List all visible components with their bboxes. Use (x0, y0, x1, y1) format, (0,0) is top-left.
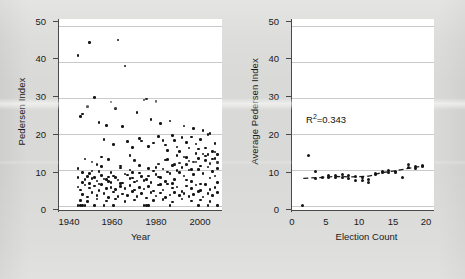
data-point (164, 180, 167, 183)
data-point (152, 190, 155, 193)
data-point (121, 125, 124, 128)
data-point (199, 183, 202, 186)
data-point (178, 150, 181, 153)
data-point (145, 178, 148, 181)
right-ytick-10: 10 (257, 167, 279, 178)
data-point (197, 204, 200, 207)
data-point (159, 183, 162, 186)
data-point (173, 139, 176, 142)
data-point (77, 176, 80, 179)
data-point (171, 187, 174, 190)
gridline-y-30 (59, 98, 222, 99)
data-point (214, 142, 217, 145)
data-point (195, 152, 198, 155)
data-point (86, 105, 89, 108)
data-point (93, 185, 96, 188)
data-point (207, 204, 210, 207)
data-point (214, 157, 217, 160)
data-point (119, 167, 122, 170)
data-point (155, 173, 158, 176)
data-point (207, 166, 210, 169)
gridline-y-20 (59, 134, 222, 135)
data-point (414, 167, 417, 170)
data-point (117, 195, 120, 198)
data-point (93, 176, 96, 179)
left-xtick-1960: 1960 (93, 216, 131, 227)
data-point (100, 165, 103, 168)
data-point (216, 204, 219, 207)
data-point (93, 96, 96, 99)
data-point (192, 161, 195, 164)
r-squared-base: R (306, 114, 313, 125)
data-point (84, 178, 87, 181)
data-point (164, 159, 167, 162)
data-point (301, 204, 304, 207)
data-point (131, 146, 134, 149)
data-point (197, 168, 200, 171)
data-point (88, 172, 91, 175)
data-point (216, 161, 219, 164)
data-point (138, 172, 141, 175)
data-point (162, 139, 165, 142)
data-point (140, 175, 143, 178)
data-point (103, 138, 106, 141)
data-point (202, 172, 205, 175)
data-point (133, 189, 136, 192)
data-point (367, 181, 370, 184)
data-point (103, 192, 106, 195)
data-point (159, 176, 162, 179)
data-point (204, 147, 207, 150)
data-point (211, 194, 214, 197)
data-point (112, 143, 115, 146)
data-point (86, 175, 89, 178)
right-scatter-panel: Average Pedersen Index 50 40 30 20 10 0 … (233, 0, 465, 279)
data-point (207, 192, 210, 195)
data-point (152, 199, 155, 202)
data-point (81, 113, 84, 116)
data-point (100, 174, 103, 177)
left-xtick-2000: 2000 (181, 216, 219, 227)
data-point (107, 180, 110, 183)
data-point (114, 198, 117, 201)
right-xtick-0: 0 (278, 216, 306, 227)
data-point (209, 177, 212, 180)
left-ytick-30: 30 (24, 91, 46, 102)
data-point (171, 201, 174, 204)
data-point (107, 196, 110, 199)
data-point (185, 163, 188, 166)
data-point (199, 165, 202, 168)
data-point (147, 204, 150, 207)
data-point (157, 163, 160, 166)
data-point (216, 191, 219, 194)
data-point (192, 173, 195, 176)
data-point (214, 186, 217, 189)
right-ytick-30: 30 (257, 91, 279, 102)
data-point (112, 204, 115, 207)
data-point (84, 184, 87, 187)
r-squared-value: =0.343 (317, 114, 346, 125)
left-scatter-panel: Pedersen Index 50 40 30 20 10 0 1940 196… (0, 0, 233, 279)
data-point (81, 171, 84, 174)
data-point (185, 185, 188, 188)
data-point (112, 175, 115, 178)
data-point (209, 162, 212, 165)
data-point (103, 204, 106, 207)
right-panel-ylabel: Average Pedersen Index (249, 44, 260, 179)
data-point (147, 167, 150, 170)
data-point (126, 140, 129, 143)
data-point (211, 158, 214, 161)
left-panel-xlabel: Year (59, 231, 222, 242)
data-point (93, 204, 96, 207)
data-point (121, 182, 124, 185)
data-point (183, 125, 186, 128)
data-point (197, 148, 200, 151)
data-point (195, 184, 198, 187)
data-point (185, 141, 188, 144)
data-point (140, 192, 143, 195)
left-ytick-40: 40 (24, 53, 46, 64)
data-point (209, 188, 212, 191)
data-point (169, 194, 172, 197)
data-point (81, 181, 84, 184)
data-point (321, 176, 324, 179)
left-plot-area (59, 19, 222, 211)
